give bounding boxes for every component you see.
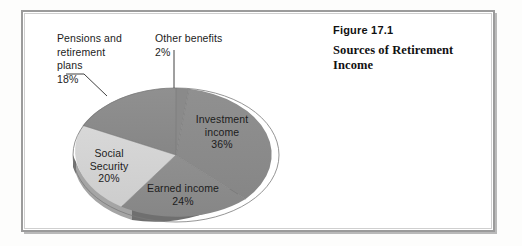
callout-pensions-line1: Pensions and	[57, 32, 153, 46]
slice-label-investment-line1: Investment	[179, 113, 265, 126]
figure-number: Figure 17.1	[333, 24, 483, 36]
slice-label-investment-line2: income	[179, 126, 265, 139]
figure-frame-shadow-bottom	[24, 232, 497, 234]
slice-label-earned-line1: Earned income	[129, 182, 237, 195]
slice-label-social-percent: 20%	[78, 172, 140, 185]
figure-title-block: Figure 17.1 Sources of Retirement Income	[333, 24, 483, 72]
callout-label-other-benefits: Other benefits 2%	[155, 32, 245, 59]
figure-frame-shadow-right	[495, 13, 497, 234]
slice-label-social-security: Social Security 20%	[78, 147, 140, 185]
callout-pensions-line2: retirement	[57, 46, 153, 60]
callout-pensions-percent: 18%	[57, 73, 153, 87]
slice-label-earned-income: Earned income 24%	[129, 182, 237, 207]
figure-title: Sources of Retirement Income	[333, 43, 483, 72]
slice-label-investment-income: Investment income 36%	[179, 113, 265, 151]
slice-label-investment-percent: 36%	[179, 138, 265, 151]
callout-other-line1: Other benefits	[155, 32, 245, 46]
figure-container: Investment income 36% Earned income 24% …	[0, 0, 522, 246]
pie-chart: Investment income 36% Earned income 24% …	[21, 10, 321, 232]
callout-label-pensions: Pensions and retirement plans 18%	[57, 32, 153, 86]
callout-pensions-line3: plans	[57, 59, 153, 73]
slice-label-earned-percent: 24%	[129, 195, 237, 208]
slice-label-social-line2: Security	[78, 160, 140, 173]
slice-label-social-line1: Social	[78, 147, 140, 160]
callout-other-percent: 2%	[155, 46, 245, 60]
